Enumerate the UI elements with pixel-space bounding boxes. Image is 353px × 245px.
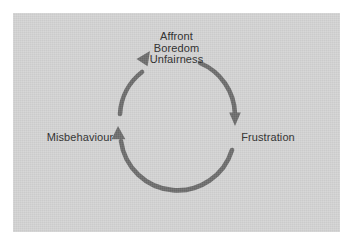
node-label-misbehaviour: Misbehaviour bbox=[25, 132, 135, 144]
node-label-trigger-line-1: Affront bbox=[13, 31, 340, 43]
node-label-trigger: Affront Boredom Unfairness bbox=[13, 31, 340, 66]
arrow-trigger-to-frustration bbox=[200, 63, 241, 126]
node-label-frustration: Frustration bbox=[213, 132, 323, 144]
arc-path-frustration-to-misbehaviour bbox=[121, 141, 232, 190]
arrowhead-to-frustration bbox=[229, 113, 241, 127]
node-label-trigger-line-3: Unfairness bbox=[13, 54, 340, 66]
arc-path-trigger-to-frustration bbox=[200, 63, 235, 114]
diagram-panel: Affront Boredom Unfairness Frustration M… bbox=[13, 13, 340, 232]
diagram-canvas: Affront Boredom Unfairness Frustration M… bbox=[0, 0, 353, 245]
arc-path-misbehaviour-to-trigger bbox=[120, 72, 142, 114]
